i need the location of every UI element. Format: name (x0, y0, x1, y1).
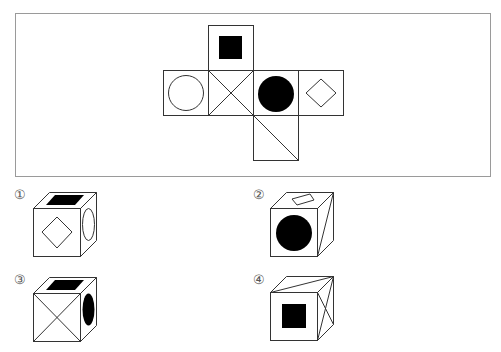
net-face-top (209, 26, 254, 71)
net-face-bottom (254, 116, 299, 161)
white-circle-icon (169, 76, 204, 111)
figure-canvas (0, 0, 501, 352)
black-circle-icon (258, 76, 294, 112)
option-2-label[interactable]: ② (253, 187, 265, 202)
net-face-cross (209, 71, 254, 116)
cube-net (164, 26, 344, 161)
black-square-icon (282, 304, 306, 328)
net-face-black-circle (254, 71, 299, 116)
option-1-label[interactable]: ① (14, 187, 26, 202)
black-circle-icon (276, 215, 312, 251)
option-4-label[interactable]: ④ (253, 272, 265, 287)
option-1-cube[interactable] (34, 193, 97, 257)
net-face-diamond (299, 71, 344, 116)
option-3-label[interactable]: ③ (14, 272, 26, 287)
black-square-icon (219, 36, 242, 59)
option-2-cube[interactable] (271, 193, 334, 257)
white-diamond-icon (306, 79, 336, 107)
black-circle-icon (83, 294, 95, 326)
option-3-cube[interactable] (34, 278, 97, 342)
option-4-cube[interactable] (271, 277, 334, 341)
net-face-circle (164, 71, 209, 116)
